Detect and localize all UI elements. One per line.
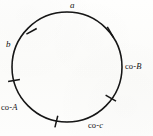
label-co-a-variable: A xyxy=(12,102,17,112)
tick-left xyxy=(8,80,20,82)
tick-upper-right xyxy=(107,27,113,38)
main-circle xyxy=(12,12,122,122)
label-co-a-prefix: co- xyxy=(1,102,12,112)
label-co-c: co-c xyxy=(88,121,103,130)
label-co-a: co-A xyxy=(1,103,17,112)
label-a: a xyxy=(70,1,75,10)
label-co-b-variable: B xyxy=(136,61,141,71)
label-co-b: co-B xyxy=(125,62,141,71)
circle-diagram-figure: a b co-A co-B co-c xyxy=(0,0,153,136)
label-co-c-variable: c xyxy=(99,120,103,130)
label-co-b-prefix: co- xyxy=(125,61,136,71)
label-b: b xyxy=(6,40,11,49)
label-co-c-prefix: co- xyxy=(88,120,99,130)
